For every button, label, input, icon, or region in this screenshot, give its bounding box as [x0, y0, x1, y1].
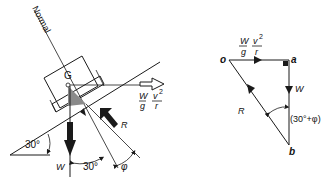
weight-arrow — [64, 122, 76, 156]
force-diagrams: Normal G W g v 2 r W R 30° 30° φ o a b W… — [0, 0, 324, 177]
centrifugal-radius: r — [155, 101, 159, 111]
force-radius: r — [255, 47, 259, 57]
force-velocity: v — [253, 36, 258, 46]
side-bo — [229, 60, 289, 145]
arrow-ab — [285, 86, 293, 94]
centre-label: G — [64, 70, 72, 81]
force-exponent: 2 — [259, 33, 263, 40]
normal-label: Normal — [30, 4, 52, 34]
weight-label: W — [56, 162, 66, 172]
reaction-label: R — [121, 120, 128, 130]
force-triangle: o a b W g v 2 r W R (30°+φ) — [220, 33, 321, 157]
right-angle-marker — [283, 61, 288, 66]
reaction-line — [86, 104, 140, 158]
centrifugal-velocity: v — [153, 91, 158, 101]
reaction-arrow — [100, 108, 118, 128]
force-denominator: g — [241, 47, 246, 57]
point-b: b — [289, 146, 295, 157]
friction-angle-label: φ — [121, 161, 128, 172]
weight-label-right: W — [295, 84, 305, 94]
contact-arrow — [80, 108, 86, 116]
point-a: a — [291, 54, 297, 65]
normal-line — [34, 10, 118, 168]
vehicle-on-banked-track: Normal G W g v 2 r W R 30° 30° φ — [10, 4, 164, 177]
angle-arc — [268, 107, 287, 114]
reaction-label-right: R — [238, 106, 245, 116]
force-numerator: W — [240, 36, 250, 46]
incline-angle-label: 30° — [25, 139, 40, 150]
point-o: o — [220, 54, 226, 65]
centrifugal-numerator: W — [139, 91, 149, 101]
normal-angle-label: 30° — [83, 161, 98, 172]
angle-label: (30°+φ) — [290, 114, 321, 124]
arrow-oa — [254, 56, 262, 64]
arrow-bo — [247, 84, 255, 94]
centrifugal-exponent: 2 — [159, 88, 163, 95]
incline-angle-arc — [48, 134, 50, 152]
centre-of-gravity-point — [66, 83, 70, 87]
centrifugal-denominator: g — [140, 101, 145, 111]
